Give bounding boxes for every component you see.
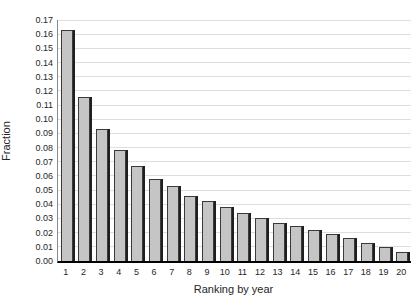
- bar-rank-13: [273, 223, 285, 261]
- bar-rank-12: [255, 218, 267, 261]
- y-tick-label: 0.01: [27, 242, 53, 252]
- x-tick-label: 20: [391, 267, 411, 277]
- bar-rank-20: [396, 252, 408, 261]
- bar-rank-1: [61, 30, 73, 261]
- bar-rank-16: [326, 234, 338, 261]
- y-tick-label: 0.06: [27, 171, 53, 181]
- y-tick-label: 0.14: [27, 58, 53, 68]
- gridline: [58, 232, 411, 233]
- y-tick-label: 0.13: [27, 72, 53, 82]
- bar-rank-18: [361, 243, 373, 261]
- gridline: [58, 90, 411, 91]
- x-axis-title: Ranking by year: [57, 283, 410, 295]
- bar-rank-15: [308, 230, 320, 261]
- y-tick-label: 0.10: [27, 114, 53, 124]
- y-tick-label: 0.07: [27, 157, 53, 167]
- bar-rank-3: [96, 129, 108, 261]
- bar-rank-8: [184, 196, 196, 261]
- bar-rank-10: [220, 207, 232, 261]
- y-tick-label: 0.12: [27, 86, 53, 96]
- gridline: [58, 190, 411, 191]
- bar-rank-14: [290, 226, 302, 261]
- bar-rank-11: [237, 213, 249, 261]
- gridline: [58, 119, 411, 120]
- bar-rank-17: [343, 238, 355, 261]
- gridline: [58, 34, 411, 35]
- gridline: [58, 175, 411, 176]
- gridline: [58, 161, 411, 162]
- y-tick-label: 0.00: [27, 256, 53, 266]
- gridline: [58, 62, 411, 63]
- gridline: [58, 133, 411, 134]
- gridline: [58, 246, 411, 247]
- y-tick-label: 0.03: [27, 213, 53, 223]
- y-tick-label: 0.02: [27, 228, 53, 238]
- y-tick-label: 0.09: [27, 128, 53, 138]
- gridline: [58, 76, 411, 77]
- y-axis-title: Fraction: [0, 96, 12, 186]
- y-tick-label: 0.08: [27, 143, 53, 153]
- bar-rank-19: [379, 247, 391, 261]
- plot-area: [57, 20, 411, 263]
- bar-rank-5: [131, 166, 143, 261]
- bar-rank-7: [167, 186, 179, 261]
- bar-rank-4: [114, 150, 126, 261]
- gridline: [58, 147, 411, 148]
- bar-chart: Fraction 0.000.010.020.030.040.050.060.0…: [0, 0, 420, 306]
- y-tick-label: 0.16: [27, 29, 53, 39]
- gridline: [58, 105, 411, 106]
- bar-rank-2: [78, 97, 90, 261]
- y-tick-label: 0.15: [27, 43, 53, 53]
- y-tick-label: 0.11: [27, 100, 53, 110]
- y-tick-label: 0.17: [27, 15, 53, 25]
- y-tick-label: 0.05: [27, 185, 53, 195]
- gridline: [58, 48, 411, 49]
- bar-rank-9: [202, 201, 214, 261]
- y-tick-label: 0.04: [27, 199, 53, 209]
- gridline: [58, 20, 411, 21]
- gridline: [58, 218, 411, 219]
- gridline: [58, 204, 411, 205]
- bar-rank-6: [149, 179, 161, 261]
